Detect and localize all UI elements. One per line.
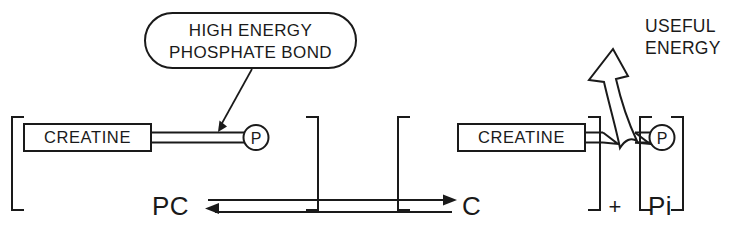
callout-line-1: HIGH ENERGY — [189, 21, 312, 40]
reaction-diagram: HIGH ENERGY PHOSPHATE BOND CREATINE P PC — [0, 0, 740, 231]
phosphate-label-reactant: P — [251, 130, 262, 147]
plus-sign: + — [609, 194, 622, 219]
useful-energy-line-2: ENERGY — [645, 38, 721, 58]
reversible-reaction-arrows — [205, 195, 457, 215]
reactant-close-bracket — [306, 117, 318, 210]
reactant-group: CREATINE P PC — [12, 117, 318, 221]
species-label-pi: Pi — [648, 191, 672, 221]
reactant-open-bracket — [12, 117, 24, 210]
product-group: C CREATINE + P Pi — [398, 117, 683, 221]
creatine-label-reactant: CREATINE — [44, 128, 131, 146]
high-energy-phosphate-bond-callout: HIGH ENERGY PHOSPHATE BOND — [145, 13, 356, 132]
callout-line-2: PHOSPHATE BOND — [169, 43, 332, 62]
reverse-arrow-head — [205, 203, 219, 214]
broken-bond-break-left — [603, 133, 618, 145]
product-open-bracket — [398, 117, 410, 210]
forward-arrow-head — [443, 195, 457, 206]
creatine-label-product: CREATINE — [478, 128, 565, 146]
reaction-scheme-canvas: HIGH ENERGY PHOSPHATE BOND CREATINE P PC — [0, 0, 740, 231]
useful-energy-line-1: USEFUL — [645, 16, 716, 36]
species-label-c: C — [462, 191, 481, 221]
callout-leader-line — [221, 69, 252, 125]
phosphate-label-product: P — [657, 130, 668, 147]
species-label-pc: PC — [152, 191, 189, 221]
creatine-close-bracket — [588, 117, 600, 210]
